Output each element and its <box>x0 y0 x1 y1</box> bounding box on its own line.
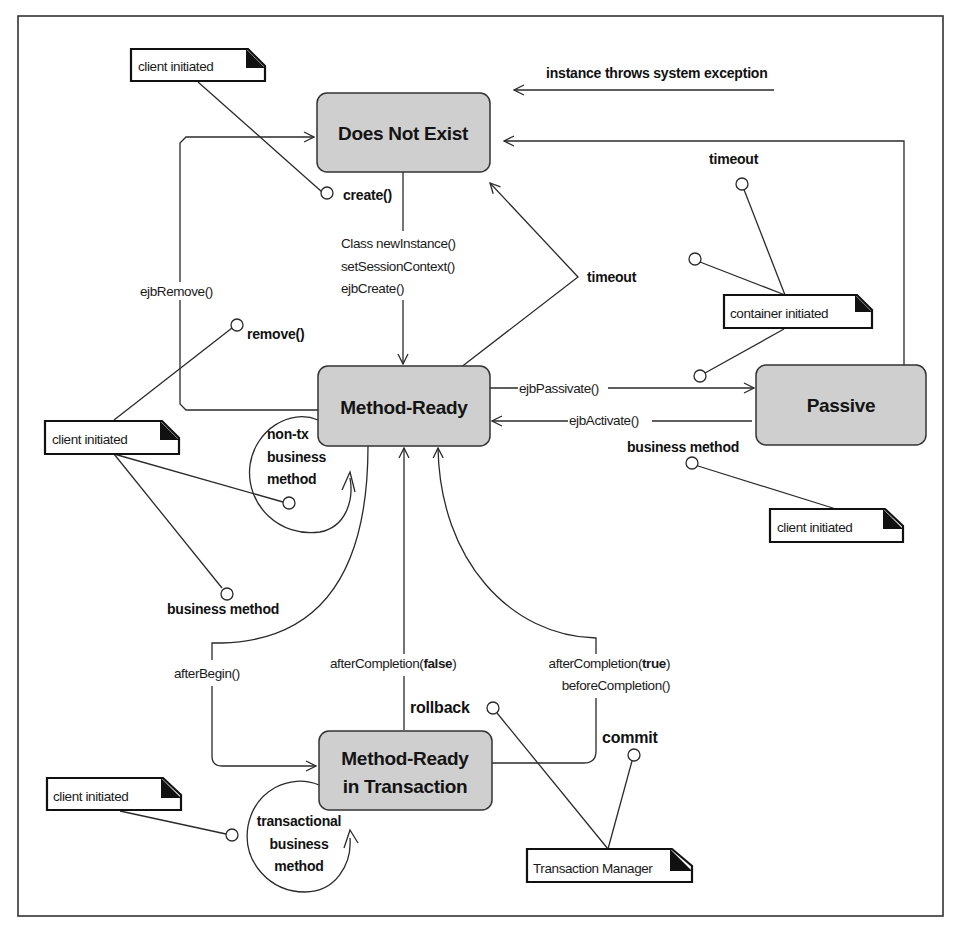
svg-text:client initiated: client initiated <box>777 520 852 535</box>
label-before-completion: beforeCompletion() <box>562 678 670 693</box>
label-timeout-center: timeout <box>587 269 637 285</box>
state-does-not-exist-label: Does Not Exist <box>338 123 469 144</box>
method-ready-timeout-arrow <box>460 183 578 368</box>
state-method-ready-tx-label-2: in Transaction <box>343 776 468 797</box>
label-create: create() <box>343 187 392 203</box>
label-non-tx-3: method <box>267 471 316 487</box>
label-rollback: rollback <box>410 699 470 716</box>
non-tx-event-pin <box>283 497 295 509</box>
note-connector <box>743 187 785 295</box>
rollback-pin <box>487 702 499 714</box>
stateful-session-bean-state-diagram: Does Not Exist Method-Ready Passive Meth… <box>0 0 968 939</box>
label-non-tx-2: business <box>267 449 327 465</box>
label-ejb-create: ejbCreate() <box>341 281 404 296</box>
note-connector <box>114 454 222 588</box>
container-event-pin <box>689 253 701 265</box>
commit-pin <box>628 749 640 761</box>
note-client-initiated-top: client initiated <box>131 49 265 81</box>
label-after-begin: afterBegin() <box>174 666 240 681</box>
passive-timeout-arrow <box>504 141 904 365</box>
state-does-not-exist: Does Not Exist <box>317 93 490 172</box>
state-method-ready-label: Method-Ready <box>340 397 468 418</box>
state-method-ready-in-transaction: Method-Ready in Transaction <box>319 731 492 810</box>
svg-text:client initiated: client initiated <box>138 59 213 74</box>
label-after-completion-true: afterCompletion(true) <box>549 656 670 671</box>
svg-text:container initiated: container initiated <box>730 306 828 321</box>
state-passive-label: Passive <box>807 395 876 416</box>
label-ejb-activate: ejbActivate() <box>569 413 639 428</box>
note-connector <box>120 811 226 834</box>
note-connector <box>698 466 836 509</box>
note-connector <box>114 454 283 502</box>
note-connector <box>608 761 632 849</box>
label-ejb-remove: ejbRemove() <box>140 284 213 299</box>
label-tx-3: method <box>274 858 323 874</box>
state-method-ready-tx-label-1: Method-Ready <box>341 748 469 769</box>
label-set-session-context: setSessionContext() <box>341 259 455 274</box>
label-commit: commit <box>602 729 659 746</box>
svg-text:client initiated: client initiated <box>53 789 128 804</box>
tx-loop-arrowhead <box>344 830 358 848</box>
label-business-method-right: business method <box>627 439 739 455</box>
passivate-event-pin <box>694 370 706 382</box>
note-client-initiated-right: client initiated <box>770 509 903 542</box>
remove-event-pin <box>231 319 243 331</box>
label-after-completion-false: afterCompletion(false) <box>330 656 456 671</box>
note-client-initiated-left: client initiated <box>45 421 179 454</box>
note-container-initiated: container initiated <box>724 295 872 328</box>
non-tx-loop-arrowhead <box>342 472 355 492</box>
business-method-right-pin <box>686 457 698 469</box>
note-connector <box>497 713 608 849</box>
tx-event-pin <box>226 829 238 841</box>
svg-text:Transaction Manager: Transaction Manager <box>533 861 653 876</box>
label-business-method-left: business method <box>167 601 279 617</box>
label-remove: remove() <box>247 326 305 342</box>
business-method-left-pin <box>221 588 233 600</box>
svg-text:client initiated: client initiated <box>52 432 127 447</box>
note-client-initiated-bottom: client initiated <box>47 778 181 810</box>
state-passive: Passive <box>756 365 926 445</box>
create-event-pin <box>321 187 333 199</box>
timeout-right-pin <box>736 178 748 190</box>
label-non-tx-1: non-tx <box>267 426 309 442</box>
label-instance-throws: instance throws system exception <box>546 65 768 81</box>
label-tx-2: business <box>269 836 329 852</box>
label-timeout-right: timeout <box>709 151 759 167</box>
label-ejb-passivate: ejbPassivate() <box>519 381 599 396</box>
note-connector <box>114 328 232 420</box>
ejb-remove-arrow <box>180 137 318 410</box>
label-class-new-instance: Class newInstance() <box>341 236 456 251</box>
label-tx-1: transactional <box>257 813 342 829</box>
state-method-ready: Method-Ready <box>318 366 490 446</box>
note-connector <box>700 262 785 295</box>
note-transaction-manager: Transaction Manager <box>527 849 692 882</box>
